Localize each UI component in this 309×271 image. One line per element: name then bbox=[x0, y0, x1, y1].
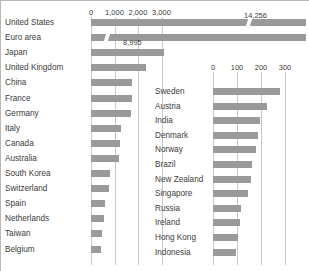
bar bbox=[91, 246, 101, 253]
bar bbox=[91, 125, 121, 132]
category-label: Japan bbox=[5, 48, 27, 57]
category-label: Euro area bbox=[5, 33, 41, 42]
category-label: Sweden bbox=[155, 87, 185, 96]
axis-tick-label: 200 bbox=[255, 63, 268, 72]
category-label: Ireland bbox=[155, 218, 180, 227]
bar bbox=[213, 161, 252, 168]
category-label: Taiwan bbox=[5, 229, 31, 238]
axis-tick-label: 2,000 bbox=[129, 8, 148, 17]
category-label: Netherlands bbox=[5, 214, 49, 223]
bar-value-label: 8,995 bbox=[123, 38, 142, 47]
bar bbox=[213, 190, 248, 197]
bar bbox=[91, 155, 119, 162]
category-label: New Zealand bbox=[155, 175, 203, 184]
category-label: Singapore bbox=[155, 189, 192, 198]
bar bbox=[91, 79, 132, 86]
chart-frame: 01,0002,0003,000 United StatesEuro areaJ… bbox=[0, 0, 309, 271]
category-label: Italy bbox=[5, 124, 20, 133]
bar bbox=[213, 234, 238, 241]
category-label: Austria bbox=[155, 102, 180, 111]
category-label: Spain bbox=[5, 199, 26, 208]
bar bbox=[213, 205, 241, 212]
axis-tick-label: 0 bbox=[211, 63, 215, 72]
category-label: China bbox=[5, 78, 26, 87]
category-label: Belgium bbox=[5, 245, 35, 254]
category-label: Hong Kong bbox=[155, 233, 196, 242]
bar bbox=[91, 170, 110, 177]
category-label: Russia bbox=[155, 204, 180, 213]
category-label: Norway bbox=[155, 145, 183, 154]
left-chart-panel: 01,0002,0003,000 United StatesEuro areaJ… bbox=[1, 1, 153, 271]
bar bbox=[91, 140, 120, 147]
bar bbox=[91, 185, 109, 192]
axis-tick-label: 1,000 bbox=[105, 8, 124, 17]
category-label: United Kingdom bbox=[5, 63, 63, 72]
category-label: Switzerland bbox=[5, 184, 47, 193]
category-label: France bbox=[5, 94, 30, 103]
right-chart-panel: 0100200300 SwedenAustriaIndiaDenmarkNorw… bbox=[153, 1, 309, 271]
category-label: United States bbox=[5, 18, 54, 27]
bar bbox=[213, 117, 260, 124]
bar bbox=[213, 88, 280, 95]
category-label: Australia bbox=[5, 154, 37, 163]
category-label: Denmark bbox=[155, 131, 188, 140]
category-label: South Korea bbox=[5, 169, 51, 178]
axis-tick-label: 0 bbox=[89, 8, 93, 17]
bar bbox=[213, 249, 236, 256]
category-label: Indonesia bbox=[155, 248, 191, 257]
bar bbox=[213, 132, 258, 139]
bar bbox=[213, 103, 267, 110]
category-label: Brazil bbox=[155, 160, 175, 169]
bar bbox=[91, 215, 104, 222]
bar bbox=[91, 230, 102, 237]
category-label: India bbox=[155, 116, 173, 125]
axis-tick-label: 300 bbox=[279, 63, 292, 72]
gridline bbox=[285, 72, 286, 265]
category-label: Germany bbox=[5, 109, 39, 118]
bar bbox=[213, 146, 256, 153]
axis-tick-label: 100 bbox=[231, 63, 244, 72]
bar bbox=[91, 95, 132, 102]
bar bbox=[91, 110, 131, 117]
bar bbox=[213, 176, 251, 183]
bar bbox=[213, 219, 240, 226]
category-label: Canada bbox=[5, 139, 34, 148]
bar bbox=[91, 200, 105, 207]
gridline bbox=[261, 72, 262, 265]
bar bbox=[91, 64, 146, 71]
